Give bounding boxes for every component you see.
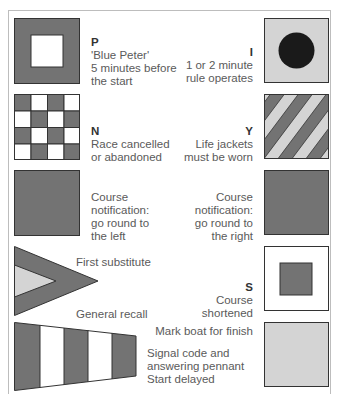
flag-mark-boat-icon xyxy=(264,322,332,390)
flag-p-icon xyxy=(14,18,82,86)
flag-n-icon xyxy=(14,94,82,162)
flag-s-icon xyxy=(264,246,332,314)
general-recall-label: General recall xyxy=(76,308,148,321)
flag-course-left-label: Course notification: go round to the lef… xyxy=(91,191,149,243)
flag-s-label: S Course shortened xyxy=(150,281,253,320)
flag-y-label: Y Life jackets must be worn xyxy=(150,125,253,164)
flag-mark-boat-label: Mark boat for finish xyxy=(140,325,253,338)
flag-i-label: I 1 or 2 minute rule operates xyxy=(150,46,253,85)
flag-y-icon xyxy=(264,94,332,162)
flag-course-left-icon xyxy=(14,170,82,238)
flag-first-substitute-label: First substitute xyxy=(76,256,151,269)
flag-course-right-icon xyxy=(264,170,332,238)
flag-course-right-label: Course notification: go round to the rig… xyxy=(150,191,253,243)
flag-answering-pennant-icon xyxy=(14,322,140,392)
flag-answering-pennant-label: Signal code and answering pennant Start … xyxy=(147,347,244,386)
flag-i-icon xyxy=(264,18,332,86)
